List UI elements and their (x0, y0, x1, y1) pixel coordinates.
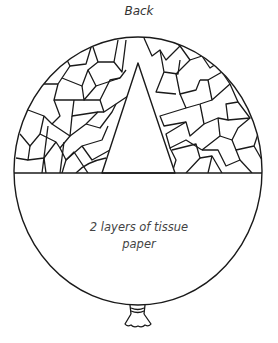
caption-line-1: 2 layers of tissue (64, 219, 214, 236)
lower-half-caption: 2 layers of tissue paper (64, 219, 214, 253)
balloon-knot (125, 305, 151, 327)
balloon-diagram (0, 0, 278, 343)
caption-line-2: paper (64, 236, 214, 253)
